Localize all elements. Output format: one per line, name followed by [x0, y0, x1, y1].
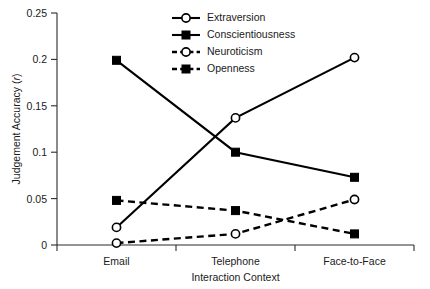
- series-extraversion: [112, 54, 358, 232]
- legend-marker-neuroticism: [182, 48, 190, 56]
- y-tick-label: 0.05: [27, 193, 48, 205]
- legend-item-neuroticism: Neuroticism: [172, 45, 263, 57]
- x-axis-title: Interaction Context: [191, 271, 279, 283]
- data-point-conscientiousness-email: [113, 56, 121, 64]
- data-point-openness-email: [113, 196, 121, 204]
- legend-label-neuroticism: Neuroticism: [207, 45, 263, 57]
- y-axis-title-text: Judgement Accuracy (: [10, 80, 22, 184]
- data-point-conscientiousness-face-to-face: [351, 173, 359, 181]
- x-tick-label-email: Email: [103, 255, 129, 267]
- svg-text:Judgement Accuracy (r): Judgement Accuracy (r): [10, 74, 22, 185]
- x-tick-label-face-to-face: Face-to-Face: [323, 255, 386, 267]
- data-point-openness-telephone: [232, 207, 240, 215]
- x-axis-ticks: [57, 245, 414, 251]
- legend-marker-conscientiousness: [182, 31, 190, 39]
- legend-label-openness: Openness: [207, 62, 255, 74]
- legend-label-extraversion: Extraversion: [207, 11, 266, 23]
- y-axis-title: Judgement Accuracy (r): [10, 74, 22, 185]
- data-point-conscientiousness-telephone: [232, 148, 240, 156]
- y-tick-label: 0.15: [27, 100, 48, 112]
- data-point-extraversion-telephone: [231, 114, 239, 122]
- chart-figure: 0.25 0.2 0.15 0.1 0.05 0 Email Telephone…: [0, 0, 430, 289]
- legend-item-openness: Openness: [172, 62, 255, 74]
- x-tick-label-telephone: Telephone: [211, 255, 260, 267]
- series-line-extraversion: [117, 58, 355, 228]
- y-tick-label: 0.25: [27, 7, 48, 19]
- legend-item-extraversion: Extraversion: [172, 11, 266, 23]
- y-tick-label: 0: [41, 239, 47, 251]
- series-line-openness: [117, 200, 355, 234]
- legend-item-conscientiousness: Conscientiousness: [172, 28, 295, 40]
- data-point-extraversion-face-to-face: [350, 54, 358, 62]
- y-tick-label: 0.1: [32, 146, 47, 158]
- y-tick-label: 0.2: [32, 53, 47, 65]
- line-chart: 0.25 0.2 0.15 0.1 0.05 0 Email Telephone…: [0, 0, 430, 289]
- data-point-openness-face-to-face: [351, 230, 359, 238]
- legend-marker-openness: [182, 65, 190, 73]
- y-axis-ticks: 0.25 0.2 0.15 0.1 0.05 0: [27, 7, 57, 251]
- legend-label-conscientiousness: Conscientiousness: [207, 28, 295, 40]
- series-neuroticism: [112, 195, 358, 247]
- data-point-neuroticism-face-to-face: [350, 195, 358, 203]
- chart-legend: Extraversion Conscientiousness Neurotici…: [172, 11, 295, 74]
- y-axis-title-paren: ): [10, 74, 22, 78]
- data-point-neuroticism-telephone: [231, 230, 239, 238]
- data-point-neuroticism-email: [112, 239, 120, 247]
- data-point-extraversion-email: [112, 223, 120, 231]
- legend-marker-extraversion: [182, 14, 190, 22]
